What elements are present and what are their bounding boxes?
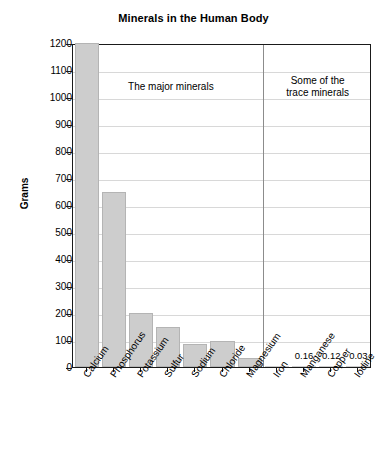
gridline (73, 72, 370, 73)
bar (102, 192, 126, 368)
plot-annotation-trace: Some of the trace minerals (269, 75, 366, 99)
gridline (73, 99, 370, 100)
plot-area: 0.160.120.03 The major mineralsSome of t… (72, 44, 371, 368)
plot-annotation-major: The major minerals (103, 81, 239, 93)
bar (75, 43, 99, 367)
minerals-bar-chart: Minerals in the Human Body Grams 1200110… (0, 0, 387, 450)
x-axis-label-group: CalciumPhosphorusPotassiumSulfurSodiumCh… (0, 373, 387, 450)
gridline (73, 126, 370, 127)
section-divider-line (263, 45, 264, 367)
gridline (73, 180, 370, 181)
gridline (73, 153, 370, 154)
